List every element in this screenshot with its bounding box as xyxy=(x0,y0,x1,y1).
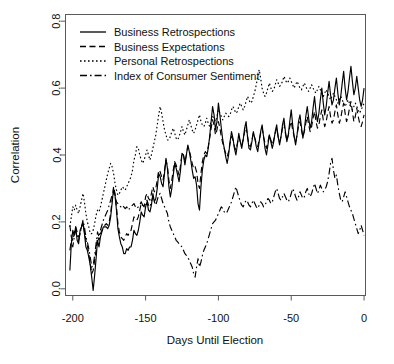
y-tick-label: 0.4 xyxy=(51,147,63,162)
x-tick-label: -200 xyxy=(62,312,84,324)
x-tick-label: -100 xyxy=(207,312,229,324)
legend-label-3: Index of Consumer Sentiment xyxy=(114,70,260,82)
legend-label-0: Business Retrospections xyxy=(114,26,236,38)
legend-label-2: Personal Retrospections xyxy=(114,55,234,67)
y-tick-label: 0.2 xyxy=(51,214,63,229)
x-axis-title: Days Until Election xyxy=(167,334,264,346)
y-axis-title: Correlation xyxy=(9,127,21,183)
y-tick-label: 0.6 xyxy=(51,80,63,95)
x-tick-label: -50 xyxy=(283,312,299,324)
x-tick-label: 0 xyxy=(361,312,367,324)
correlation-line-chart: 0.00.20.40.60.8 -200-150-100-500 Busines… xyxy=(0,0,394,364)
y-tick-label: 0.8 xyxy=(51,14,63,29)
legend-label-1: Business Expectations xyxy=(114,41,225,53)
y-tick-label: 0.0 xyxy=(51,281,63,296)
x-tick-label: -150 xyxy=(135,312,157,324)
chart-container: 0.00.20.40.60.8 -200-150-100-500 Busines… xyxy=(0,0,394,364)
